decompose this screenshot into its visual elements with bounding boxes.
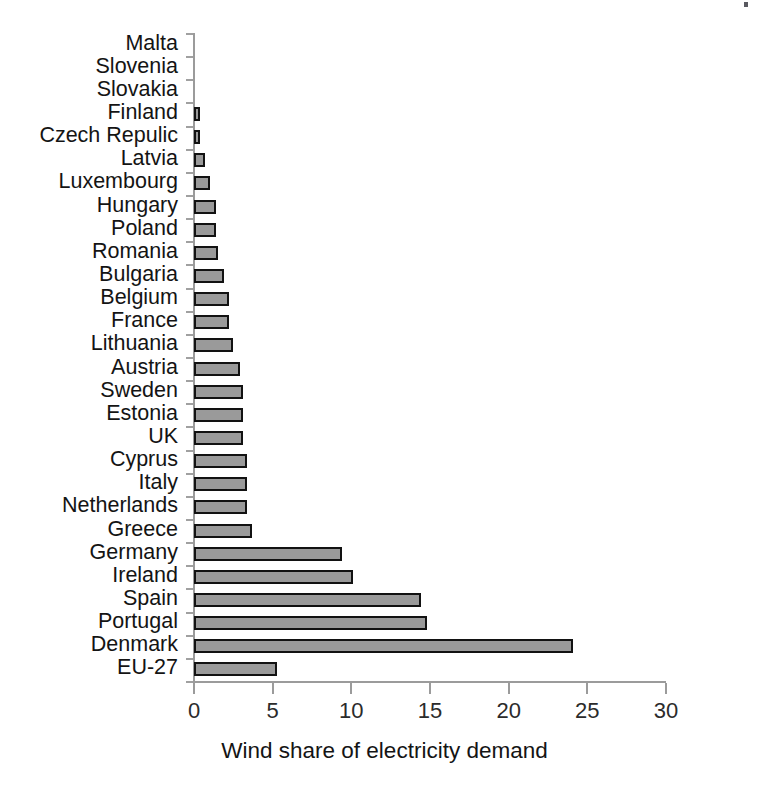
y-axis-tick — [186, 149, 193, 151]
category-label-france: France — [0, 309, 186, 331]
y-axis-tick — [186, 450, 193, 452]
bar-hungary — [194, 200, 216, 214]
category-label-finland: Finland — [0, 101, 186, 123]
bar-italy — [194, 477, 247, 491]
category-label-portugal: Portugal — [0, 610, 186, 632]
x-axis-tick — [586, 683, 588, 694]
y-axis-tick — [186, 311, 193, 313]
category-label-slovenia: Slovenia — [0, 55, 186, 77]
category-label-eu-27: EU-27 — [0, 656, 186, 678]
category-axis-labels: MaltaSloveniaSlovakiaFinlandCzech Repuli… — [0, 33, 186, 681]
bar-sweden — [194, 385, 243, 399]
y-axis-tick — [186, 288, 193, 290]
bar-finland — [194, 107, 200, 121]
x-axis-tick — [350, 683, 352, 694]
bar-denmark — [194, 639, 573, 653]
category-label-malta: Malta — [0, 32, 186, 54]
bar-luxembourg — [194, 176, 210, 190]
x-axis-title: Wind share of electricity demand — [0, 738, 769, 764]
y-axis-tick — [186, 473, 193, 475]
category-label-italy: Italy — [0, 471, 186, 493]
y-axis-tick — [186, 403, 193, 405]
bar-ireland — [194, 570, 353, 584]
bar-spain — [194, 593, 421, 607]
category-label-greece: Greece — [0, 518, 186, 540]
y-axis-tick — [186, 612, 193, 614]
bar-germany — [194, 547, 342, 561]
y-axis-tick — [186, 588, 193, 590]
y-axis-tick — [186, 681, 193, 683]
bar-latvia — [194, 153, 205, 167]
category-label-belgium: Belgium — [0, 286, 186, 308]
category-label-lithuania: Lithuania — [0, 332, 186, 354]
bar-estonia — [194, 408, 243, 422]
category-label-germany: Germany — [0, 541, 186, 563]
bar-uk — [194, 431, 243, 445]
y-axis-tick — [186, 519, 193, 521]
category-label-czech-repulic: Czech Repulic — [0, 124, 186, 146]
x-axis-tick — [193, 683, 195, 694]
y-axis-tick — [186, 635, 193, 637]
x-axis-tick-label: 10 — [321, 698, 381, 724]
y-axis-tick — [186, 658, 193, 660]
y-axis-tick — [186, 542, 193, 544]
y-axis-tick — [186, 264, 193, 266]
y-axis-tick — [186, 195, 193, 197]
category-label-uk: UK — [0, 425, 186, 447]
category-label-luxembourg: Luxembourg — [0, 170, 186, 192]
category-label-hungary: Hungary — [0, 194, 186, 216]
bar-belgium — [194, 292, 229, 306]
category-label-poland: Poland — [0, 217, 186, 239]
bar-cyprus — [194, 454, 247, 468]
category-label-spain: Spain — [0, 587, 186, 609]
bar-lithuania — [194, 338, 233, 352]
x-axis-tick-label: 20 — [479, 698, 539, 724]
category-label-netherlands: Netherlands — [0, 494, 186, 516]
y-axis-tick — [186, 172, 193, 174]
category-label-slovakia: Slovakia — [0, 78, 186, 100]
plot-area — [193, 33, 665, 681]
scan-artifact-speck — [744, 2, 748, 7]
x-axis-tick — [508, 683, 510, 694]
bar-romania — [194, 246, 218, 260]
bar-czech-repulic — [194, 130, 200, 144]
y-axis-tick — [186, 102, 193, 104]
x-axis-tick — [665, 683, 667, 694]
category-label-denmark: Denmark — [0, 633, 186, 655]
x-axis-tick-label: 25 — [557, 698, 617, 724]
x-axis-tick — [429, 683, 431, 694]
wind-share-bar-chart: MaltaSloveniaSlovakiaFinlandCzech Repuli… — [0, 0, 769, 800]
bar-poland — [194, 223, 216, 237]
y-axis-tick — [186, 33, 193, 35]
x-axis-tick — [272, 683, 274, 694]
y-axis-tick — [186, 79, 193, 81]
y-axis-tick — [186, 496, 193, 498]
category-label-austria: Austria — [0, 356, 186, 378]
x-axis-tick-label: 5 — [243, 698, 303, 724]
y-axis-tick — [186, 380, 193, 382]
y-axis-tick — [186, 241, 193, 243]
y-axis-tick — [186, 56, 193, 58]
category-label-estonia: Estonia — [0, 402, 186, 424]
y-axis-tick — [186, 565, 193, 567]
category-label-sweden: Sweden — [0, 379, 186, 401]
category-label-ireland: Ireland — [0, 564, 186, 586]
bar-eu-27 — [194, 662, 277, 676]
y-axis-tick — [186, 334, 193, 336]
category-label-romania: Romania — [0, 240, 186, 262]
bar-portugal — [194, 616, 427, 630]
x-axis-tick-label: 30 — [636, 698, 696, 724]
bar-bulgaria — [194, 269, 224, 283]
y-axis-tick — [186, 126, 193, 128]
bar-greece — [194, 524, 252, 538]
category-label-latvia: Latvia — [0, 147, 186, 169]
y-axis-tick — [186, 426, 193, 428]
y-axis-tick — [186, 218, 193, 220]
category-label-bulgaria: Bulgaria — [0, 263, 186, 285]
x-axis-tick-label: 15 — [400, 698, 460, 724]
x-axis-tick-label: 0 — [164, 698, 224, 724]
y-axis-tick — [186, 357, 193, 359]
bar-netherlands — [194, 500, 247, 514]
category-label-cyprus: Cyprus — [0, 448, 186, 470]
bar-france — [194, 315, 229, 329]
